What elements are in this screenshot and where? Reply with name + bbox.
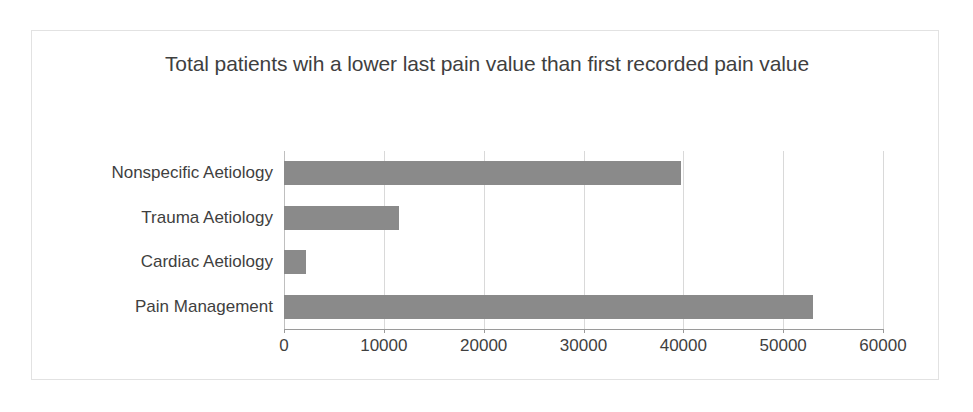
x-tick-label-0: 0 [239,336,329,356]
x-tick-mark-0 [284,329,285,333]
bar-row-pain-management: Pain Management [284,285,883,330]
bar-trauma-aetiology[interactable] [284,206,399,230]
x-tick-mark-30000 [584,329,585,333]
x-tick-label-10000: 10000 [339,336,429,356]
x-tick-mark-60000 [883,329,884,333]
x-axis-tick-labels: 0 10000 20000 30000 40000 50000 60000 [284,336,883,362]
x-tick-mark-50000 [783,329,784,333]
chart-frame: Total patients wih a lower last pain val… [31,30,939,380]
gridline-60000 [883,151,884,329]
bar-row-nonspecific-aetiology: Nonspecific Aetiology [284,151,883,196]
x-tick-mark-20000 [484,329,485,333]
plot-area: Nonspecific Aetiology Trauma Aetiology C… [284,151,883,329]
bar-pain-management[interactable] [284,295,813,319]
x-tick-label-40000: 40000 [638,336,728,356]
x-tick-mark-40000 [683,329,684,333]
category-label-nonspecific-aetiology: Nonspecific Aetiology [33,151,284,196]
x-tick-label-60000: 60000 [838,336,928,356]
bar-row-trauma-aetiology: Trauma Aetiology [284,196,883,241]
bar-cardiac-aetiology[interactable] [284,250,306,274]
bar-nonspecific-aetiology[interactable] [284,161,681,185]
category-label-cardiac-aetiology: Cardiac Aetiology [33,240,284,285]
x-tick-mark-10000 [384,329,385,333]
bar-row-cardiac-aetiology: Cardiac Aetiology [284,240,883,285]
x-tick-label-50000: 50000 [738,336,828,356]
category-label-trauma-aetiology: Trauma Aetiology [33,196,284,241]
chart-title: Total patients wih a lower last pain val… [132,49,842,78]
category-label-pain-management: Pain Management [33,285,284,330]
x-tick-label-30000: 30000 [539,336,629,356]
x-tick-label-20000: 20000 [439,336,529,356]
